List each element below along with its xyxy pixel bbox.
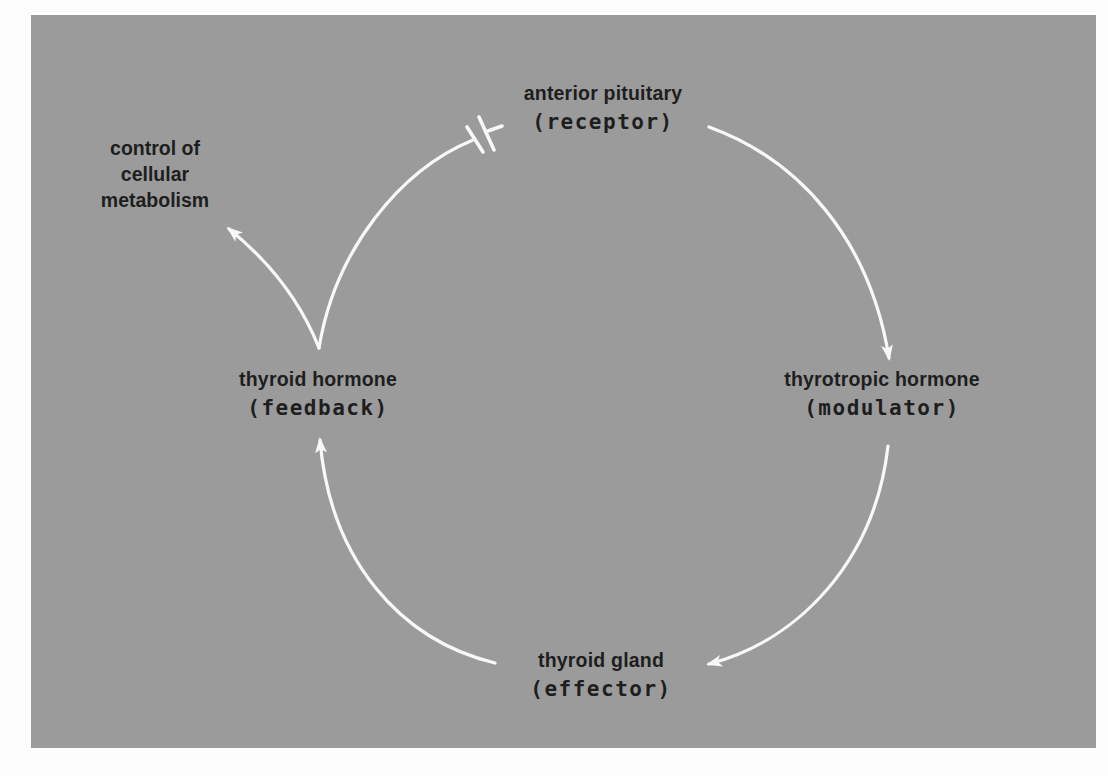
modulator-role: (modulator) [784, 392, 980, 424]
receptor-role: (receptor) [524, 106, 683, 138]
node-receptor: anterior pituitary (receptor) [524, 80, 683, 138]
effector-role: (effector) [530, 673, 671, 705]
node-effector: thyroid gland (effector) [530, 647, 671, 705]
feedback-name: thyroid hormone [239, 366, 397, 392]
outcome-line-1: control of [101, 135, 209, 161]
arrow-feedback-to-receptor [319, 140, 473, 348]
inhibition-break-icon [467, 117, 502, 152]
arrow-modulator-to-effector [709, 446, 888, 664]
effector-name: thyroid gland [530, 647, 671, 673]
feedback-role: (feedback) [239, 392, 397, 424]
arrow-effector-to-feedback [320, 440, 495, 663]
outcome-line-3: metabolism [101, 187, 209, 213]
arrow-receptor-to-modulator [709, 127, 889, 358]
node-feedback: thyroid hormone (feedback) [239, 366, 397, 424]
node-modulator: thyrotropic hormone (modulator) [784, 366, 980, 424]
receptor-name: anterior pituitary [524, 80, 683, 106]
arrow-feedback-to-outcome [229, 229, 319, 348]
outcome-label: control of cellular metabolism [101, 135, 209, 213]
outcome-line-2: cellular [101, 161, 209, 187]
modulator-name: thyrotropic hormone [784, 366, 980, 392]
